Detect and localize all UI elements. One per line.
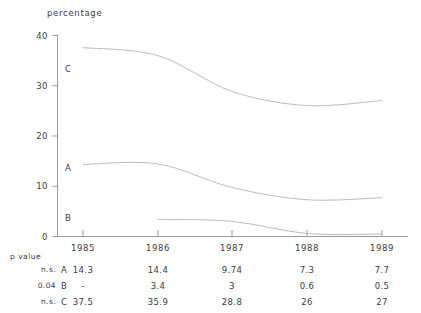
cell-1989: 27 xyxy=(359,297,405,307)
cell-1985: - xyxy=(60,281,106,291)
cell-1985: 14.3 xyxy=(60,265,106,275)
series-line-c xyxy=(83,48,382,106)
row-p-value: n.s. xyxy=(0,297,56,306)
chart-figure: percentage 40 30 20 10 0 1985 1986 1987 … xyxy=(0,0,421,313)
y-axis-tick-label-0: 0 xyxy=(26,232,48,242)
cell-1987: 3 xyxy=(209,281,255,291)
series-label-c: C xyxy=(65,64,77,74)
y-axis-tick-label-40: 40 xyxy=(26,31,48,41)
table-row: n.s. C 37.5 35.9 28.8 26 27 xyxy=(0,297,421,311)
data-table: p value n.s. A 14.3 14.4 9.74 7.3 7.7 0.… xyxy=(0,252,421,313)
series-label-b: B xyxy=(65,213,77,223)
y-axis-tick-label-30: 30 xyxy=(26,81,48,91)
cell-1987: 28.8 xyxy=(209,297,255,307)
p-value-header: p value xyxy=(10,252,41,261)
row-p-value: n.s. xyxy=(0,265,56,274)
table-row: 0.04 B - 3.4 3 0.6 0.5 xyxy=(0,281,421,295)
cell-1989: 0.5 xyxy=(359,281,405,291)
cell-1988: 26 xyxy=(284,297,330,307)
cell-1986: 35.9 xyxy=(135,297,181,307)
y-axis-title: percentage xyxy=(47,8,102,18)
cell-1988: 0.6 xyxy=(284,281,330,291)
cell-1987: 9.74 xyxy=(209,265,255,275)
series-line-a xyxy=(83,162,382,200)
cell-1989: 7.7 xyxy=(359,265,405,275)
table-row: n.s. A 14.3 14.4 9.74 7.3 7.7 xyxy=(0,265,421,279)
row-p-value: 0.04 xyxy=(0,281,56,290)
cell-1988: 7.3 xyxy=(284,265,330,275)
series-line-b xyxy=(158,219,382,234)
cell-1985: 37.5 xyxy=(60,297,106,307)
cell-1986: 3.4 xyxy=(135,281,181,291)
series-label-a: A xyxy=(65,163,77,173)
y-axis-tick-label-10: 10 xyxy=(26,181,48,191)
cell-1986: 14.4 xyxy=(135,265,181,275)
y-axis-tick-label-20: 20 xyxy=(26,131,48,141)
